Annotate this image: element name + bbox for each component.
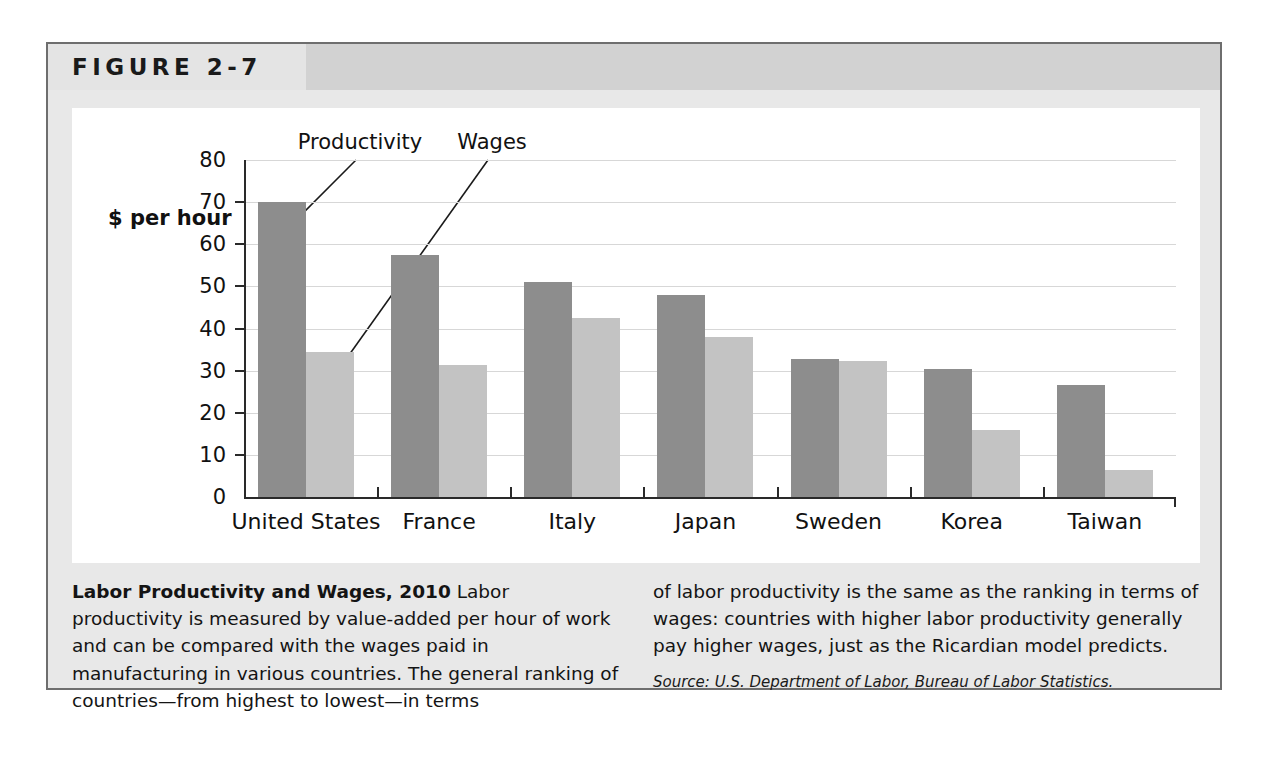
x-axis-tick [510, 487, 512, 497]
bar-wages-taiwan [1105, 470, 1153, 497]
bar-wages-korea [972, 430, 1020, 497]
bar-slot [258, 160, 306, 497]
bar-slot [306, 160, 354, 497]
bar-slot [439, 160, 487, 497]
bar-slot [524, 160, 572, 497]
bar-productivity-taiwan [1057, 385, 1105, 497]
annotation-label-wages: Wages [457, 130, 526, 154]
header-tint-band [306, 44, 1220, 90]
bar-productivity-italy [524, 282, 572, 497]
caption-column-right: of labor productivity is the same as the… [653, 578, 1200, 678]
figure-number-label: FIGURE 2-7 [72, 54, 262, 80]
bar-productivity-japan [657, 295, 705, 497]
y-axis-tick-label: 20 [182, 401, 226, 425]
figure-caption: Labor Productivity and Wages, 2010 Labor… [72, 578, 1200, 678]
bar-slot [572, 160, 620, 497]
bar-productivity-sweden [791, 359, 839, 497]
bar-productivity-united-states [258, 202, 306, 497]
x-axis-category-label: France [403, 509, 476, 534]
bar-slot [705, 160, 753, 497]
y-axis-tick-label: 50 [182, 274, 226, 298]
bar-wages-united-states [306, 352, 354, 497]
bar-productivity-korea [924, 369, 972, 497]
y-axis-tick-label: 80 [182, 148, 226, 172]
bar-slot [1057, 160, 1105, 497]
x-axis-tick [777, 487, 779, 497]
y-axis-tick-label: 30 [182, 359, 226, 383]
bar-productivity-france [391, 255, 439, 497]
chart-panel: $ per hour 01020304050607080United State… [72, 108, 1200, 563]
caption-body-right: of labor productivity is the same as the… [653, 581, 1198, 656]
x-axis-category-label: Japan [675, 509, 736, 534]
figure-header: FIGURE 2-7 [48, 44, 1220, 90]
y-axis-tick [235, 370, 244, 372]
bar-wages-sweden [839, 361, 887, 497]
caption-column-left: Labor Productivity and Wages, 2010 Labor… [72, 578, 619, 678]
y-axis-tick-label: 10 [182, 443, 226, 467]
y-axis-tick-label: 70 [182, 190, 226, 214]
y-axis-tick [235, 243, 244, 245]
bar-slot [972, 160, 1020, 497]
bar-wages-france [439, 365, 487, 497]
x-axis-tick [643, 487, 645, 497]
bar-chart: $ per hour 01020304050607080United State… [72, 108, 1200, 563]
bar-slot [657, 160, 705, 497]
x-axis-category-label: Sweden [795, 509, 882, 534]
x-axis-category-label: Korea [941, 509, 1003, 534]
x-axis-tick [377, 487, 379, 497]
bar-slot [791, 160, 839, 497]
caption-source: Source: U.S. Department of Labor, Bureau… [653, 671, 1200, 693]
y-axis-tick [235, 454, 244, 456]
bar-slot [391, 160, 439, 497]
x-axis-category-label: Italy [548, 509, 596, 534]
bar-slot [839, 160, 887, 497]
x-axis-category-label: Taiwan [1067, 509, 1142, 534]
y-axis-tick-label: 60 [182, 232, 226, 256]
bar-wages-japan [705, 337, 753, 497]
caption-title: Labor Productivity and Wages, 2010 [72, 581, 451, 602]
bar-slot [924, 160, 972, 497]
y-axis-tick [235, 412, 244, 414]
x-axis-line [244, 497, 1176, 499]
y-axis-tick-label: 40 [182, 317, 226, 341]
bar-wages-italy [572, 318, 620, 497]
annotation-label-productivity: Productivity [298, 130, 423, 154]
annotation-leader-lines [72, 108, 1200, 563]
x-axis-tick [910, 487, 912, 497]
x-axis-category-label: United States [232, 509, 381, 534]
y-axis-tick [235, 285, 244, 287]
bar-slot [1105, 160, 1153, 497]
y-axis-line [244, 160, 246, 497]
x-axis-tick [1043, 487, 1045, 497]
figure-container: FIGURE 2-7 $ per hour 01020304050607080U… [46, 42, 1222, 690]
y-axis-tick [235, 328, 244, 330]
y-axis-tick-label: 0 [182, 485, 226, 509]
y-axis-tick [235, 201, 244, 203]
x-axis-end-tick [1174, 497, 1176, 507]
